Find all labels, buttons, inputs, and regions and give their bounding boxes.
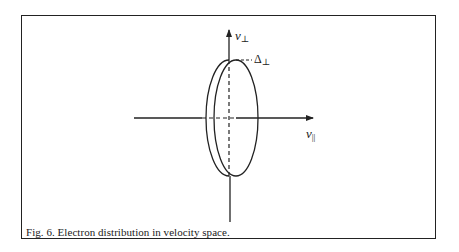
v-perp-label: v⊥ [235,29,249,44]
v-perp-subscript: ⊥ [241,34,249,44]
figure-caption: Fig. 6. Electron distribution in velocit… [26,226,230,238]
delta-perp-label: Δ⊥ [254,53,270,67]
delta-subscript: ⊥ [262,57,270,67]
delta-symbol: Δ [254,52,262,66]
v-parallel-subscript: || [312,132,316,142]
v-parallel-label: v|| [306,127,315,142]
velocity-space-diagram [0,0,459,252]
